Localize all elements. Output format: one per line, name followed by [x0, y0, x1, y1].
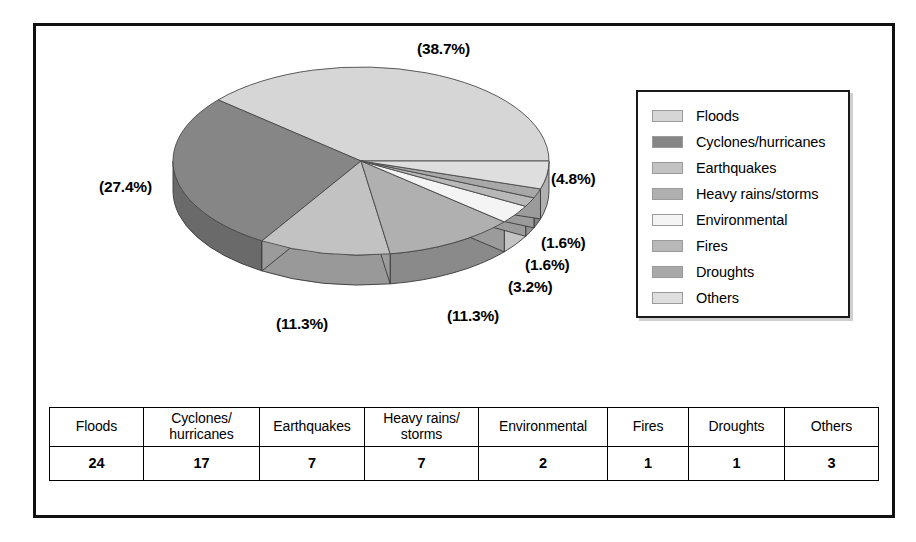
pie-percent-label: (3.2%): [508, 278, 552, 296]
table-value-cell: 1: [608, 447, 689, 481]
pie-percent-label: (11.3%): [447, 307, 499, 325]
table-value-cell: 7: [365, 447, 479, 481]
table-header-cell: Environmental: [479, 408, 608, 447]
legend-swatch-icon: [652, 214, 683, 226]
table-header-cell: Earthquakes: [260, 408, 365, 447]
legend-item-list: FloodsCyclones/hurricanesEarthquakesHeav…: [652, 103, 842, 311]
legend-item: Cyclones/hurricanes: [652, 129, 842, 155]
table-header-cell: Floods: [50, 408, 144, 447]
legend-swatch-icon: [652, 240, 683, 252]
legend-item: Heavy rains/storms: [652, 181, 842, 207]
data-table: FloodsCyclones/hurricanesEarthquakesHeav…: [49, 407, 879, 481]
pie-percent-label: (1.6%): [541, 234, 585, 252]
table-value-row: 2417772113: [50, 447, 879, 481]
table-value-cell: 1: [689, 447, 785, 481]
pie-percent-label: (11.3%): [276, 315, 328, 333]
pie-percent-label: (1.6%): [525, 256, 569, 274]
table-value-cell: 7: [260, 447, 365, 481]
data-table-body: FloodsCyclones/hurricanesEarthquakesHeav…: [50, 408, 879, 481]
table-value-cell: 2: [479, 447, 608, 481]
chart-legend: FloodsCyclones/hurricanesEarthquakesHeav…: [636, 90, 850, 318]
table-value-cell: 17: [144, 447, 260, 481]
table-header-cell: Cyclones/hurricanes: [144, 408, 260, 447]
legend-swatch-icon: [652, 162, 683, 174]
pie-chart-svg: [36, 26, 656, 386]
legend-item: Environmental: [652, 207, 842, 233]
legend-swatch-icon: [652, 110, 683, 122]
legend-item: Others: [652, 285, 842, 311]
legend-item-label: Cyclones/hurricanes: [696, 134, 825, 150]
pie-percent-label: (27.4%): [99, 178, 152, 196]
table-header-cell: Heavy rains/storms: [365, 408, 479, 447]
legend-swatch-icon: [652, 136, 683, 148]
pie-percent-label: (38.7%): [417, 40, 470, 58]
legend-item-label: Heavy rains/storms: [696, 186, 818, 202]
legend-item: Droughts: [652, 259, 842, 285]
table-header-cell: Droughts: [689, 408, 785, 447]
table-header-cell: Fires: [608, 408, 689, 447]
legend-item-label: Earthquakes: [696, 160, 776, 176]
table-value-cell: 24: [50, 447, 144, 481]
legend-swatch-icon: [652, 188, 683, 200]
legend-item-label: Droughts: [696, 264, 754, 280]
legend-item: Earthquakes: [652, 155, 842, 181]
table-header-row: FloodsCyclones/hurricanesEarthquakesHeav…: [50, 408, 879, 447]
legend-item-label: Environmental: [696, 212, 787, 228]
legend-swatch-icon: [652, 292, 683, 304]
chart-figure-frame: (38.7%)(27.4%)(4.8%)(1.6%)(1.6%)(3.2%)(1…: [33, 23, 895, 518]
legend-item-label: Others: [696, 290, 739, 306]
table-header-cell: Others: [785, 408, 879, 447]
table-value-cell: 3: [785, 447, 879, 481]
legend-item-label: Fires: [696, 238, 728, 254]
pie-percent-label: (4.8%): [551, 170, 595, 188]
legend-item: Floods: [652, 103, 842, 129]
pie-chart-area: (38.7%)(27.4%)(4.8%)(1.6%)(1.6%)(3.2%)(1…: [36, 26, 656, 386]
legend-item-label: Floods: [696, 108, 739, 124]
legend-item: Fires: [652, 233, 842, 259]
legend-swatch-icon: [652, 266, 683, 278]
